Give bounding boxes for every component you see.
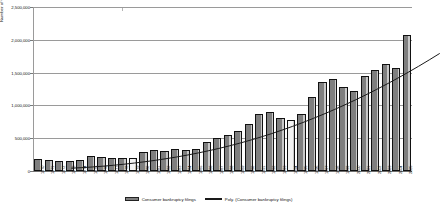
x-tick-label: 1987: [219, 166, 224, 174]
y-tick-label: 1,500,000: [11, 70, 30, 75]
x-tick-label: 2000: [356, 166, 361, 174]
trendline-path: [71, 53, 439, 168]
x-tick-label: 1986: [208, 166, 213, 174]
x-tick-label: 1977: [114, 166, 119, 174]
y-axis-tick: [30, 40, 33, 41]
plot-area: [33, 7, 412, 171]
y-axis-tick: [30, 105, 33, 106]
x-tick-label: 1997: [324, 166, 329, 174]
stray-artifact-mark: [122, 8, 123, 11]
y-tick-label: 2,000,000: [11, 37, 30, 42]
x-tick-label: 1983: [177, 166, 182, 174]
x-tick-label: 2005: [408, 166, 413, 174]
legend-bar-swatch-icon: [125, 197, 139, 201]
y-axis-tick-labels: 2,500,0002,000,0001,500,0001,000,000500,…: [0, 0, 32, 211]
x-tick-label: 1994: [293, 166, 298, 174]
x-tick-label: 2002: [377, 166, 382, 174]
x-tick-label: 1973: [71, 166, 76, 174]
x-tick-label: 1984: [187, 166, 192, 174]
x-tick-label: 1998: [335, 166, 340, 174]
x-tick-label: 1991: [261, 166, 266, 174]
x-tick-label: 1988: [229, 166, 234, 174]
legend-label-trendline: Poly. (Consumer bankruptcy filings): [225, 197, 293, 202]
x-tick-label: 1978: [124, 166, 129, 174]
y-axis-tick: [30, 7, 33, 8]
x-tick-label: 1974: [82, 166, 87, 174]
x-tick-label: 2001: [366, 166, 371, 174]
y-axis-tick: [30, 171, 33, 172]
y-axis-tick: [30, 138, 33, 139]
y-tick-label: 1,000,000: [11, 103, 30, 108]
x-tick-label: 1971: [50, 166, 55, 174]
chart-legend: Consumer bankruptcy filings Poly. (Consu…: [0, 192, 417, 206]
trendline-series: [66, 14, 444, 178]
x-tick-label: 1975: [93, 166, 98, 174]
x-tick-label: 1993: [282, 166, 287, 174]
x-tick-label: 1982: [166, 166, 171, 174]
x-tick-label: 1989: [240, 166, 245, 174]
x-tick-label: 1995: [303, 166, 308, 174]
legend-item-bars: Consumer bankruptcy filings: [125, 197, 196, 202]
x-tick-label: 1979: [135, 166, 140, 174]
y-tick-label: 500,000: [15, 136, 30, 141]
x-tick-label: 1985: [198, 166, 203, 174]
y-axis-tick: [30, 73, 33, 74]
x-tick-label: 1980: [145, 166, 150, 174]
x-tick-label: 2004: [398, 166, 403, 174]
x-tick-label: 1972: [61, 166, 66, 174]
legend-item-trendline: Poly. (Consumer bankruptcy filings): [205, 197, 293, 202]
legend-line-swatch-icon: [205, 198, 222, 199]
legend-label-bars: Consumer bankruptcy filings: [142, 197, 196, 202]
x-tick-label: 1970: [40, 166, 45, 174]
x-tick-label: 1996: [314, 166, 319, 174]
x-tick-label: 2003: [387, 166, 392, 174]
x-tick-label: 1981: [156, 166, 161, 174]
y-tick-label: 2,500,000: [11, 5, 30, 10]
x-tick-label: 1992: [271, 166, 276, 174]
x-tick-label: 1990: [250, 166, 255, 174]
x-tick-label: 1976: [103, 166, 108, 174]
x-tick-label: 1999: [345, 166, 350, 174]
gridline: [33, 7, 412, 8]
